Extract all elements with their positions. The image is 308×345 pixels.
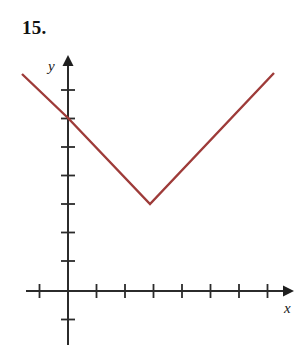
y-axis-label: y bbox=[46, 58, 55, 74]
coordinate-plane-graph: y x bbox=[0, 0, 308, 345]
figure-root: 15. bbox=[0, 0, 308, 345]
y-axis-arrow-icon bbox=[63, 55, 74, 66]
x-axis-arrow-icon bbox=[283, 286, 294, 297]
x-axis-label: x bbox=[283, 300, 291, 316]
data-series-line bbox=[22, 73, 274, 204]
